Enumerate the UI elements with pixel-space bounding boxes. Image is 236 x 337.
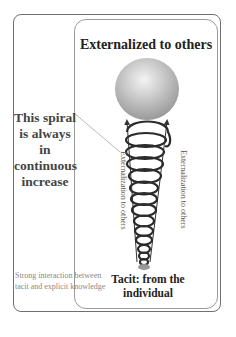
tacit-title: Tacit: from the individual <box>108 272 188 300</box>
spiral-coils <box>126 122 170 266</box>
right-arrow-label: Externalization to others <box>179 150 188 229</box>
spiral-base <box>138 264 150 270</box>
interaction-note: Strong interaction between tacit and exp… <box>15 271 115 292</box>
externalized-title: Externalized to others <box>78 36 214 54</box>
spiral-note: This spiral is always in continuous incr… <box>14 110 76 190</box>
left-arrow-label: Externalization to others <box>119 151 128 230</box>
pointer-line <box>74 113 120 152</box>
knowledge-sphere <box>115 58 179 120</box>
